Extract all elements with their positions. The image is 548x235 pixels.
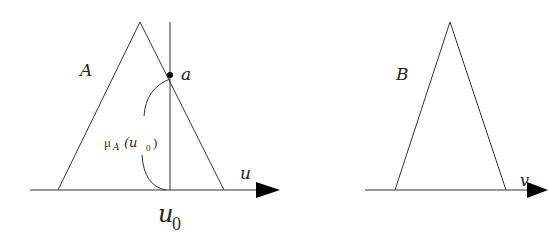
membership-mu: μ xyxy=(104,135,111,150)
set-A-label: A xyxy=(78,60,92,80)
left-panel: A a u u 0 μ A (u 0 ) xyxy=(30,22,280,234)
membership-brace-lower xyxy=(142,155,166,190)
membership-arg: (u xyxy=(124,135,137,150)
u-axis-arrowhead xyxy=(256,182,280,198)
membership-brace-upper xyxy=(144,79,170,116)
right-panel: B v xyxy=(365,22,548,198)
triangle-A xyxy=(58,22,224,190)
triangle-B xyxy=(395,22,506,190)
membership-sub-A: A xyxy=(112,142,120,152)
point-a-label: a xyxy=(181,64,191,84)
set-B-label: B xyxy=(395,64,409,84)
v-axis-arrowhead xyxy=(527,182,548,198)
membership-argsub: 0 xyxy=(146,143,151,153)
point-a-dot xyxy=(167,72,173,78)
fuzzy-sets-diagram: A a u u 0 μ A (u 0 ) B v xyxy=(0,0,548,235)
membership-close: ) xyxy=(153,135,157,150)
v-axis-label: v xyxy=(520,171,529,190)
u0-label-sub: 0 xyxy=(172,214,181,234)
u-axis-label: u xyxy=(240,163,251,183)
